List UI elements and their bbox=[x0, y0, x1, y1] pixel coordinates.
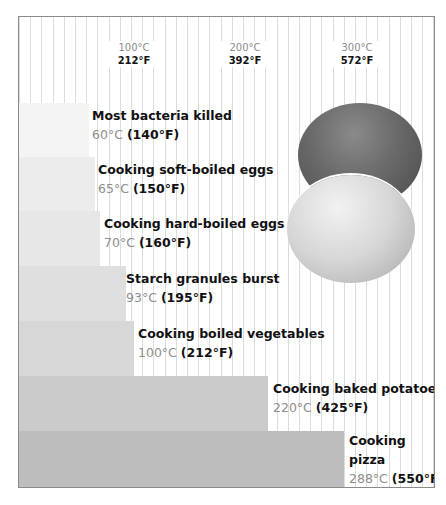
temp-fahrenheit: (160°F) bbox=[139, 235, 191, 250]
bar-label: Cooking pizza288°C (550°F) bbox=[349, 431, 435, 488]
bar bbox=[19, 211, 100, 266]
bar bbox=[19, 431, 344, 488]
tick-label: 100°C212°F bbox=[104, 41, 164, 67]
bar-label: Most bacteria killed60°C (140°F) bbox=[92, 106, 232, 144]
bar-temperature: 65°C (150°F) bbox=[98, 179, 273, 198]
tick-celsius: 100°C bbox=[104, 41, 164, 54]
tick-celsius: 300°C bbox=[327, 41, 387, 54]
temp-celsius: 65°C bbox=[98, 181, 129, 196]
bar-title: Cooking hard-boiled eggs bbox=[104, 214, 284, 233]
bar-temperature: 220°C (425°F) bbox=[273, 398, 435, 417]
temp-fahrenheit: (150°F) bbox=[133, 181, 185, 196]
bar-temperature: 93°C (195°F) bbox=[126, 288, 280, 307]
bar-temperature: 60°C (140°F) bbox=[92, 125, 232, 144]
temp-celsius: 288°C bbox=[349, 471, 388, 486]
temp-celsius: 70°C bbox=[104, 235, 135, 250]
bar bbox=[19, 103, 89, 157]
bar-label: Cooking baked potatoes220°C (425°F) bbox=[273, 379, 435, 417]
bar-title: Starch granules burst bbox=[126, 269, 280, 288]
temp-celsius: 100°C bbox=[138, 345, 177, 360]
temp-fahrenheit: (550°F) bbox=[392, 471, 435, 486]
white-egg-image bbox=[287, 175, 415, 283]
bar-title: Cooking boiled vegetables bbox=[138, 324, 325, 343]
chart-frame: 100°C212°F200°C392°F300°C572°F Most bact… bbox=[18, 16, 435, 488]
bar-title: Cooking baked potatoes bbox=[273, 379, 435, 398]
tick-fahrenheit: 572°F bbox=[327, 54, 387, 67]
bar-label: Cooking soft-boiled eggs65°C (150°F) bbox=[98, 160, 273, 198]
bar-temperature: 288°C (550°F) bbox=[349, 469, 435, 488]
tick-label: 200°C392°F bbox=[215, 41, 275, 67]
tick-fahrenheit: 392°F bbox=[215, 54, 275, 67]
bar bbox=[19, 376, 268, 431]
temp-fahrenheit: (212°F) bbox=[181, 345, 233, 360]
bar-label: Cooking boiled vegetables100°C (212°F) bbox=[138, 324, 325, 362]
bar-label: Starch granules burst93°C (195°F) bbox=[126, 269, 280, 307]
temp-fahrenheit: (195°F) bbox=[161, 290, 213, 305]
bar bbox=[19, 321, 134, 376]
tick-label: 300°C572°F bbox=[327, 41, 387, 67]
bar-title: Cooking soft-boiled eggs bbox=[98, 160, 273, 179]
temp-fahrenheit: (425°F) bbox=[316, 400, 368, 415]
bar bbox=[19, 157, 95, 211]
bar-temperature: 70°C (160°F) bbox=[104, 233, 284, 252]
bar-title: Most bacteria killed bbox=[92, 106, 232, 125]
temp-fahrenheit: (140°F) bbox=[127, 127, 179, 142]
bar bbox=[19, 266, 126, 321]
tick-fahrenheit: 212°F bbox=[104, 54, 164, 67]
bar-label: Cooking hard-boiled eggs70°C (160°F) bbox=[104, 214, 284, 252]
bar-temperature: 100°C (212°F) bbox=[138, 343, 325, 362]
temp-celsius: 220°C bbox=[273, 400, 312, 415]
temp-celsius: 60°C bbox=[92, 127, 123, 142]
temp-celsius: 93°C bbox=[126, 290, 157, 305]
bar-title: Cooking pizza bbox=[349, 431, 435, 469]
tick-celsius: 200°C bbox=[215, 41, 275, 54]
